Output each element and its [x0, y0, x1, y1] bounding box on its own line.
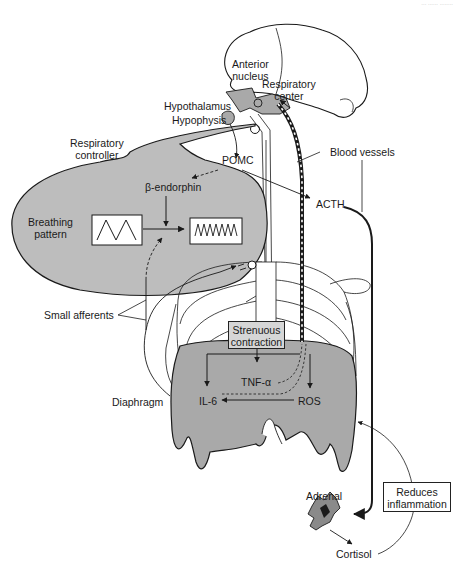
fast-breathing-box — [190, 218, 242, 244]
label-beta-endorphin: β-endorphin — [145, 181, 201, 193]
label-small-afferents: Small afferents — [44, 309, 114, 321]
label-ros: ROS — [298, 395, 321, 407]
label-blood-vessels: Blood vessels — [330, 146, 395, 158]
label-acth: ACTH — [316, 198, 345, 210]
trachea — [256, 262, 276, 322]
label-respiratory-controller: Respiratory controller — [70, 137, 124, 161]
label-breathing-pattern: Breathing pattern — [28, 216, 73, 240]
label-hypophysis: Hypophysis — [172, 114, 226, 126]
diagram-canvas — [0, 0, 459, 564]
slow-breathing-box — [92, 215, 142, 245]
label-respiratory-center: Respiratory center — [262, 78, 316, 102]
label-cortisol: Cortisol — [336, 548, 372, 560]
label-tnf-alpha: TNF-α — [241, 376, 271, 388]
strenuous-contraction-box: Strenuous contraction — [228, 321, 285, 349]
respiratory-controller-region — [12, 124, 267, 295]
label-pomc: POMC — [222, 154, 254, 166]
label-hypothalamus: Hypothalamus — [164, 100, 231, 112]
blood-vessel-dotted — [278, 104, 302, 342]
label-adrenal: Adrenal — [306, 490, 342, 502]
label-il6: IL-6 — [199, 395, 217, 407]
label-diaphragm: Diaphragm — [112, 396, 163, 408]
reduces-inflammation-box: Reduces inflammation — [383, 482, 451, 512]
neuron-node-lower — [248, 261, 256, 269]
